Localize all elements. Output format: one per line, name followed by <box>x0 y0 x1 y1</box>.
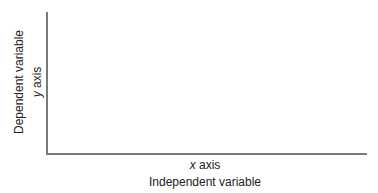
x-axis-title: Independent variable <box>149 175 261 189</box>
x-axis-label: x axis <box>190 158 221 172</box>
y-axis-word: axis <box>30 67 44 92</box>
y-axis-line <box>46 12 48 155</box>
x-axis-word: axis <box>196 158 221 172</box>
y-axis-title: Dependent variable <box>12 30 26 134</box>
y-axis-label: y axis <box>30 67 44 98</box>
y-variable: y <box>30 91 44 97</box>
x-axis-line <box>46 153 367 155</box>
